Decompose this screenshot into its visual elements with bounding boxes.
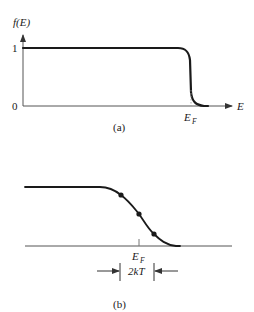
curve-point-upper [118,192,123,197]
curve-point-lower [151,231,156,236]
svg-text:E: E [183,111,191,123]
thermal-width-indicator: 2kT [97,263,178,281]
fermi-energy-label-a: E F [183,111,197,126]
svg-text:F: F [191,117,197,126]
svg-text:F: F [139,256,145,265]
svg-text:E: E [131,250,139,262]
fermi-curve-low-temp [23,48,208,106]
curve-point-fermi [136,211,141,216]
y-tick-zero: 0 [12,100,18,112]
panel-a: f(E) 1 0 E E F (a) [12,16,244,134]
y-tick-one: 1 [12,42,18,54]
fermi-curve-finite-temp [25,187,180,246]
fermi-dirac-figure: f(E) 1 0 E E F (a) [0,0,254,312]
fermi-energy-label-b: E F [131,250,145,265]
x-axis-label: E [236,100,244,112]
panel-b: E F 2kT (b) [25,187,232,311]
caption-b: (b) [113,298,126,311]
caption-a: (a) [113,121,126,134]
width-label: 2kT [128,265,145,277]
y-axis-label: f(E) [13,16,30,29]
